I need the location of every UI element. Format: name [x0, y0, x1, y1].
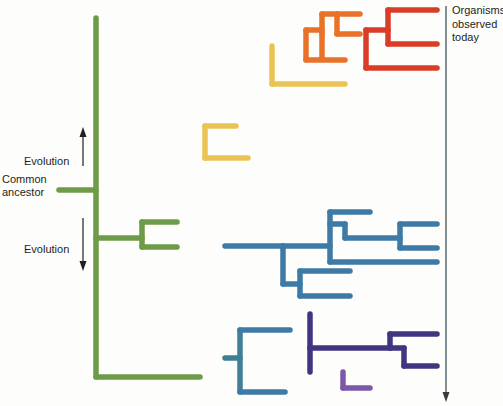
evolution-arrow-down-head: [80, 261, 87, 271]
present-day-axis-arrowhead: [443, 392, 450, 402]
present-day-axis: [443, 6, 450, 402]
organisms-observed-today-label: Organisms observed today: [452, 4, 502, 45]
common-ancestor-label: Common ancestor: [2, 173, 66, 199]
evolution-arrow-up-head: [80, 127, 87, 137]
evolution-arrows: [80, 127, 87, 271]
tree-diagram-svg: [0, 0, 503, 406]
phylogenetic-tree-figure: Common ancestor Evolution Evolution Orga…: [0, 0, 503, 406]
evolution-label-lower: Evolution: [24, 243, 69, 256]
tree-branches: [59, 10, 437, 392]
evolution-label-upper: Evolution: [24, 155, 69, 168]
